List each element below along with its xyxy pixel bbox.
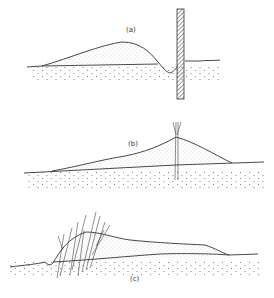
label-b: (b) — [128, 140, 138, 148]
label-a: (a) — [126, 26, 136, 34]
ground-sand-b — [26, 172, 264, 188]
dune-a — [42, 42, 158, 66]
panel-a: (a) — [27, 9, 222, 99]
ground-sand-a — [30, 67, 222, 81]
panel-b: (b) — [24, 122, 264, 188]
panel-c: (c) — [10, 212, 260, 283]
dune-c — [58, 232, 229, 262]
fence-post-a — [177, 9, 184, 99]
dune-diagram: (a) (b) — [0, 0, 274, 298]
label-c: (c) — [130, 275, 140, 283]
